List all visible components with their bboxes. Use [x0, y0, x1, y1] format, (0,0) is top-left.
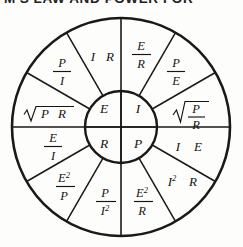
segment-Esq-over-R: E2 R: [134, 185, 153, 219]
segment-P-over-Isq-numerator: P: [100, 186, 109, 200]
segment-E-over-I-denominator: I: [50, 149, 56, 163]
segment-P-over-I: P I: [53, 56, 71, 88]
segment-IR-part2: R: [105, 49, 114, 64]
segment-P-over-E-numerator: P: [171, 56, 180, 70]
segment-IE-part1: I: [175, 139, 181, 154]
segment-Esq-over-R-numerator: E2: [135, 185, 149, 201]
segment-Isq-R: I2 R: [167, 172, 197, 189]
segment-sqrt-PR: P R: [24, 106, 74, 121]
figure-title-strip: M'S LAW AND POWER FOR: [0, 0, 243, 9]
segment-P-over-E-denominator: E: [171, 74, 180, 88]
spoke-5: [67, 158, 104, 221]
segment-Isq-R-tail: R: [188, 174, 197, 189]
segment-sqrt-PR-radicand-1: P: [40, 106, 49, 121]
segment-sqrt-P-over-R-radical-sign: [173, 102, 209, 123]
segment-Esq-over-R-num-sup: 2: [144, 185, 149, 195]
segment-Esq-over-P: E2 P: [56, 170, 75, 204]
center-label-R: R: [99, 136, 109, 151]
segment-E-over-R: E R: [132, 39, 151, 71]
segment-P-over-E: P E: [167, 56, 185, 88]
segment-sqrt-P-over-R-denominator: R: [191, 118, 200, 132]
segment-IR-part1: I: [90, 49, 96, 64]
segment-IE: I E: [175, 139, 202, 154]
segment-P-over-I-numerator: P: [57, 56, 66, 70]
segment-sqrt-PR-radicand-2: R: [57, 106, 66, 121]
center-label-P: P: [133, 136, 142, 151]
spoke-2: [152, 73, 215, 110]
segment-E-over-I-numerator: E: [48, 131, 57, 145]
segment-E-over-R-numerator: E: [136, 39, 145, 53]
segment-P-over-Isq-denominator: I2: [100, 203, 110, 219]
segment-Esq-over-R-denominator: R: [137, 204, 146, 218]
segment-sqrt-PR-radical-sign: [24, 107, 74, 122]
segment-IR: I R: [90, 49, 114, 64]
ohms-law-wheel-svg: E I R P I R P I P R E I E2: [0, 9, 243, 247]
segment-Esq-over-P-num-sup: 2: [66, 170, 71, 180]
segment-P-over-I-denominator: I: [59, 74, 65, 88]
center-label-E: E: [99, 101, 109, 116]
segment-P-over-Isq: P I2: [96, 186, 116, 218]
segment-Esq-over-P-numerator: E2: [57, 170, 71, 186]
center-label-I: I: [135, 101, 142, 116]
segment-sqrt-P-over-R-numerator: P: [191, 102, 200, 116]
spoke-3: [152, 145, 215, 182]
segment-Esq-over-P-denominator: P: [59, 189, 68, 203]
segment-IE-part2: E: [193, 139, 202, 154]
spoke-7: [27, 73, 90, 110]
segment-P-over-Isq-den-sup: 2: [105, 203, 110, 213]
figure-title: M'S LAW AND POWER FOR: [4, 0, 193, 6]
spoke-8: [67, 33, 104, 96]
segment-Isq-R-base: I2: [167, 172, 177, 189]
segment-E-over-R-denominator: R: [136, 57, 145, 71]
ohms-law-wheel-figure: M'S LAW AND POWER FOR E I R P I: [0, 0, 243, 247]
segment-E-over-I: E I: [44, 131, 62, 163]
